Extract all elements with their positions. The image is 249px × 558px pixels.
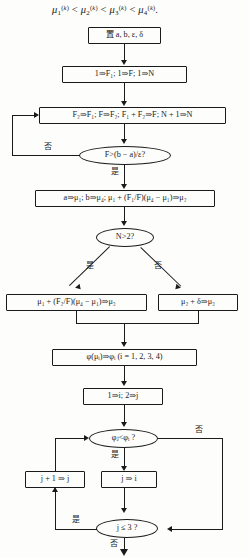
edge-merge-horizontal [76, 323, 199, 324]
flowchart-page: μ1(k) < μ2(k) < μ3(k) < μ4(k). μ₁⁽ᵏ⁾ < μ… [0, 0, 249, 558]
node-mu3-fib: μ₁ + (F₂/F)(μ₄ − μ₁)⇒μ₃ [6, 294, 147, 311]
arrowhead-down [121, 221, 127, 226]
node-init-fib: 1⇒F₁; 1⇒F; 1⇒N [62, 66, 187, 83]
node-check-n: N>2? [96, 228, 154, 247]
arrowhead-down [121, 381, 127, 386]
arrowhead-down [121, 508, 127, 513]
node-mu3-delta: μ₂ + δ⇒μ₃ [158, 294, 238, 311]
heading-formula: μ1(k) < μ2(k) < μ3(k) < μ4(k). [52, 4, 158, 16]
edge-incrj-up [55, 438, 56, 471]
node-incr-j: j + 1 ⇒ j [25, 471, 85, 488]
node-init-ij-label: 1⇒i; 2⇒j [108, 392, 139, 400]
node-set-params: 置 a, b, ε, δ [88, 27, 161, 44]
node-init-fib-label: 1⇒F₁; 1⇒F; 1⇒N [95, 70, 154, 78]
node-eval-phi: φ(μᵢ)⇒φᵢ (i = 1, 2, 3, 4) [52, 349, 197, 366]
node-mu3-fib-label: μ₁ + (F₂/F)(μ₄ − μ₁)⇒μ₃ [37, 298, 115, 306]
node-incr-j-label: j + 1 ⇒ j [41, 475, 69, 483]
edge-label-compare-yes: 是 [111, 451, 119, 459]
arrowhead-up [52, 487, 58, 492]
edge-label-checkf-no: 否 [44, 143, 52, 151]
edge-set-to-init [124, 44, 125, 61]
arrowhead-down [121, 422, 127, 427]
edge-checkf-no-vertical [12, 115, 13, 156]
node-assign-mu: a⇒μ₁; b⇒μ₄; μ₁ + (F₁/F)(μ₄ − μ₁)⇒μ₂ [35, 190, 215, 207]
node-compare-phi-label: φⱼ<φᵢ ? [112, 434, 135, 442]
arrowhead-down-exit [120, 549, 128, 556]
arrowhead-down [121, 184, 127, 189]
arrowhead-down [121, 101, 127, 106]
edge-checkf-no-return [12, 115, 36, 116]
edge-checkj-yes-stub [75, 529, 97, 530]
node-j-to-i: j ⇒ i [101, 471, 157, 488]
edge-label-checkn-yes: 是 [86, 262, 94, 270]
edge-checkj-yes-vertical [55, 488, 56, 529]
edge-checkf-no-horizontal [12, 155, 80, 156]
arrowhead-down-left [75, 284, 83, 292]
edge-label-compare-no: 否 [195, 426, 203, 434]
edge-checkj-yes-horizontal [55, 529, 75, 530]
edge-label-checkj-yes: 是 [72, 516, 80, 524]
edge-mu3fib-down [76, 311, 77, 323]
node-check-f-label: F>(b − a)/ε? [105, 151, 145, 159]
node-init-ij: 1⇒i; 2⇒j [83, 388, 163, 405]
edge-mu3delta-down [198, 311, 199, 323]
edge-compare-no-vertical [222, 438, 223, 529]
arrowhead-down [121, 139, 127, 144]
node-assign-mu-label: a⇒μ₁; b⇒μ₄; μ₁ + (F₁/F)(μ₄ − μ₁)⇒μ₂ [64, 194, 187, 202]
node-compare-phi: φⱼ<φᵢ ? [89, 429, 158, 448]
edge-compare-no-horizontal [158, 438, 223, 439]
edge-label-checkf-yes: 是 [111, 168, 119, 176]
arrowhead-down [121, 342, 127, 347]
node-fib-step-label: F₂⇒F₁; F⇒F₂; F₁ + F₂⇒F; N + 1⇒N [73, 111, 193, 119]
edge-checkf-yes [124, 165, 125, 186]
node-j-to-i-label: j ⇒ i [121, 475, 137, 483]
edge-init-to-step [124, 83, 125, 103]
node-check-j: j ≤ 3 ? [96, 519, 158, 538]
node-check-j-label: j ≤ 3 ? [117, 524, 138, 532]
arrowhead-down [121, 60, 127, 65]
node-mu3-delta-label: μ₂ + δ⇒μ₃ [181, 298, 215, 306]
node-check-f: F>(b − a)/ε? [79, 146, 171, 165]
edge-merge-to-evalphi [124, 323, 125, 344]
node-check-n-label: N>2? [116, 233, 134, 241]
node-set-params-label: 置 a, b, ε, δ [106, 31, 143, 39]
edge-label-checkj-no: 否 [110, 540, 118, 548]
arrowhead-left [167, 526, 172, 532]
edge-incrj-to-compare [55, 438, 86, 439]
edge-compare-no-to-checkj [172, 529, 223, 530]
arrowhead-right [34, 112, 39, 118]
node-fib-step: F₂⇒F₁; F⇒F₂; F₁ + F₂⇒F; N + 1⇒N [39, 107, 226, 124]
node-eval-phi-label: φ(μᵢ)⇒φᵢ (i = 1, 2, 3, 4) [87, 353, 163, 361]
edge-label-checkn-no: 否 [154, 262, 162, 270]
